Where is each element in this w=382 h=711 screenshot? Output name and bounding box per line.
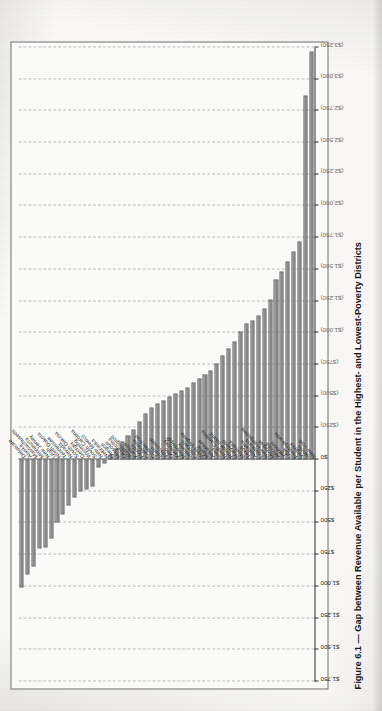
gridline — [18, 141, 314, 142]
axis-tick-label: ($3,000) — [320, 73, 343, 80]
axis-tick — [314, 109, 318, 110]
gridline — [18, 236, 314, 237]
axis-tick-label: $1,750 — [320, 675, 339, 682]
gridline — [18, 648, 314, 649]
axis-tick — [314, 300, 318, 301]
axis-tick-label: ($1,250) — [320, 295, 343, 302]
bar — [60, 459, 64, 514]
figure-caption: Figure 6.1 — Gap between Revenue Availab… — [352, 29, 362, 689]
axis-tick — [314, 236, 318, 237]
axis-tick-label: ($750) — [320, 358, 338, 365]
axis-tick-label: $1,250 — [320, 612, 339, 619]
axis-tick — [314, 395, 318, 396]
axis-tick — [314, 648, 318, 649]
bar — [43, 459, 47, 546]
axis-tick-label: ($2,000) — [320, 200, 343, 207]
bar — [49, 459, 53, 538]
axis-tick-label: ($2,500) — [320, 136, 343, 143]
bar — [66, 459, 70, 505]
gridline — [18, 109, 314, 110]
axis-tick — [314, 46, 318, 47]
axis-tick — [314, 141, 318, 142]
bar — [297, 241, 301, 459]
bar — [90, 459, 94, 486]
axis-tick-label: ($250) — [320, 422, 338, 429]
rotated-page-content: DelawareAlaskaMassachusettsMinnesotaNew … — [0, 0, 382, 711]
axis-tick-label: $500 — [320, 517, 334, 524]
axis-tick-label: ($1,000) — [320, 326, 343, 333]
scanned-page: DelawareAlaskaMassachusettsMinnesotaNew … — [0, 0, 382, 711]
axis-tick-label: ($1,500) — [320, 263, 343, 270]
axis-tick — [314, 426, 318, 427]
gridline — [18, 78, 314, 79]
bar — [256, 315, 260, 460]
axis-tick — [314, 363, 318, 364]
axis-tick-label: ($2,750) — [320, 105, 343, 112]
gridline — [18, 268, 314, 269]
bar — [31, 459, 35, 566]
bar — [291, 251, 295, 459]
figure-6-1: DelawareAlaskaMassachusettsMinnesotaNew … — [0, 0, 382, 711]
axis-tick — [314, 553, 318, 554]
axis-tick-label: ($3,250) — [320, 41, 343, 48]
gridline — [18, 46, 314, 47]
axis-tick-label: $1,500 — [320, 643, 339, 650]
gridline — [18, 617, 314, 618]
axis-tick-label: $750 — [320, 548, 334, 555]
bar — [25, 459, 29, 574]
bar — [262, 308, 266, 459]
axis-tick-label: $250 — [320, 485, 334, 492]
bar — [78, 459, 82, 491]
bar — [268, 299, 272, 459]
axis-tick — [314, 205, 318, 206]
gridline — [18, 585, 314, 586]
axis-tick — [314, 522, 318, 523]
axis-tick-label: $1,000 — [320, 580, 339, 587]
gridline — [18, 205, 314, 206]
gridline — [18, 173, 314, 174]
bar — [72, 459, 76, 497]
axis-tick — [314, 458, 318, 459]
bar — [96, 459, 100, 467]
axis-tick-label: ($500) — [320, 390, 338, 397]
axis-tick-label: ($2,250) — [320, 168, 343, 175]
bar — [279, 271, 283, 459]
bar — [102, 459, 106, 463]
bar — [19, 459, 23, 587]
bar — [285, 261, 289, 459]
axis-tick-label: $0 — [320, 453, 327, 460]
axis-tick — [314, 680, 318, 681]
axis-tick — [314, 331, 318, 332]
axis-tick — [314, 490, 318, 491]
axis-tick — [314, 617, 318, 618]
gridline — [18, 553, 314, 554]
bar — [309, 51, 313, 459]
axis-tick — [314, 268, 318, 269]
axis-tick-label: ($1,750) — [320, 231, 343, 238]
gridline — [18, 680, 314, 681]
axis-tick — [314, 585, 318, 586]
axis-tick — [314, 78, 318, 79]
axis-tick — [314, 173, 318, 174]
bar — [303, 95, 307, 459]
plot-area: DelawareAlaskaMassachusettsMinnesotaNew … — [18, 47, 314, 681]
gridline — [18, 522, 314, 523]
bar — [37, 459, 41, 548]
bar — [84, 459, 88, 489]
bar — [54, 459, 58, 522]
